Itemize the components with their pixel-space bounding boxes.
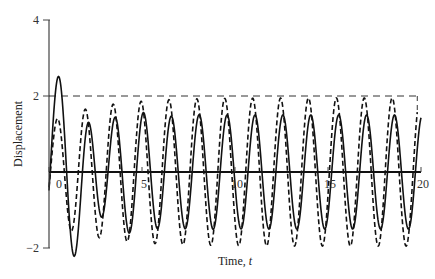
x-axis-label-var: t [249, 254, 253, 268]
y-axis-label: Displacement [11, 100, 25, 167]
y-ticks: −224 [26, 13, 50, 255]
x-tick-label: 5 [141, 177, 147, 191]
x-axis-label-main: Time, [218, 254, 249, 268]
y-tick-label: 2 [33, 89, 39, 103]
chart: −224 05101520 Displacement Time, t [0, 0, 435, 279]
x-tick-label: 20 [417, 177, 429, 191]
x-tick-label: 15 [324, 177, 336, 191]
y-tick-label: −2 [26, 241, 39, 255]
x-tick-label: 0 [56, 177, 62, 191]
x-tick-label: 10 [231, 177, 243, 191]
y-tick-label: 4 [33, 13, 39, 27]
x-axis-label: Time, t [218, 254, 253, 268]
